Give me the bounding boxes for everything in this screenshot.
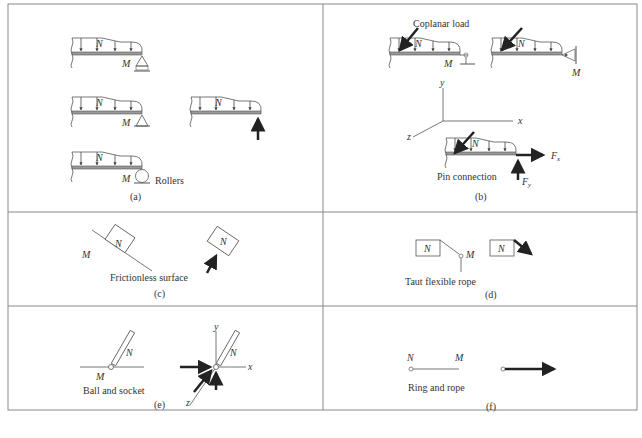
svg-text:N: N [406,352,415,363]
coplanar-load-label: Coplanar load [413,18,469,29]
svg-text:M: M [443,58,453,69]
panel-a: N M N M N N M Rollers (a) [71,38,261,203]
svg-text:N: N [229,347,238,358]
svg-text:N: N [471,138,480,149]
caption-a: (a) [130,191,141,203]
caption-b: (b) [475,191,487,203]
svg-text:x: x [517,115,523,126]
svg-text:M: M [454,352,464,363]
svg-text:y: y [213,321,219,332]
rollers-label: Rollers [155,175,184,186]
taut-rope-label: Taut flexible rope [405,276,476,287]
svg-text:N: N [219,236,228,247]
svg-text:M: M [81,249,91,260]
panel-d: N M N Taut flexible rope (d) [405,240,531,301]
fx-label: Fx [550,150,561,163]
svg-text:M: M [121,117,131,128]
caption-f: (f) [486,401,496,413]
svg-text:z: z [406,131,411,142]
ring-rope-label: Ring and rope [408,382,465,393]
svg-text:M: M [465,249,475,260]
svg-text:N: N [423,243,432,254]
svg-text:N: N [95,152,104,163]
svg-text:x: x [247,361,253,372]
svg-text:N: N [95,38,104,49]
ball-socket-label: Ball and socket [83,385,145,396]
svg-text:z: z [185,397,190,408]
panel-b: Coplanar load N M N M y x z N Fx Fy Pin … [389,18,581,203]
svg-text:N: N [125,347,134,358]
svg-text:M: M [95,371,105,382]
svg-text:N: N [414,38,423,49]
svg-text:y: y [439,77,445,88]
svg-text:M: M [121,58,131,69]
svg-text:N: N [497,243,506,254]
fy-label: Fy [521,176,532,189]
frictionless-surface-label: Frictionless surface [110,272,189,283]
caption-d: (d) [485,289,497,301]
support-types-diagram: N M N M N N M Rollers (a) Coplanar load … [0,0,642,438]
caption-e: (e) [154,399,165,411]
pin-connection-label: Pin connection [437,171,497,182]
panel-c: N M N Frictionless surface (c) [81,224,239,300]
panel-e: N M Ball and socket y x z N (e) [80,321,253,411]
caption-c: (c) [154,288,165,300]
svg-text:M: M [121,173,131,184]
svg-text:N: N [95,97,104,108]
svg-text:M: M [571,67,581,78]
panel-f: N M Ring and rope (f) [406,352,554,413]
svg-text:N: N [214,97,223,108]
svg-text:N: N [114,238,123,249]
svg-text:N: N [517,38,526,49]
